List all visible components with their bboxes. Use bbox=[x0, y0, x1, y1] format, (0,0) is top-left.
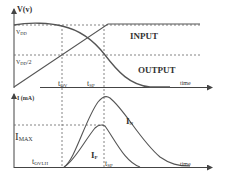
output-label: OUTPUT bbox=[138, 65, 176, 75]
imax-label: IMAX bbox=[15, 130, 33, 142]
input-label: INPUT bbox=[130, 31, 158, 41]
t-ov-label: tOV bbox=[58, 79, 68, 88]
current-time-label: time bbox=[180, 161, 191, 167]
input-curve bbox=[14, 24, 200, 87]
current-plot: I (mA) IMAX tOVLH tSP IP IN time bbox=[14, 94, 212, 168]
vdd-half-label: VDD/2 bbox=[16, 59, 32, 66]
voltage-axis-label: V(v) bbox=[17, 5, 32, 14]
voltage-time-label: time bbox=[180, 80, 191, 86]
timing-diagram: V(v) VDD VDD/2 tOV tSP INPUT OUTPUT time… bbox=[0, 0, 225, 178]
vdd-label: VDD bbox=[16, 29, 28, 36]
in-label: IN bbox=[126, 116, 134, 126]
voltage-plot: V(v) VDD VDD/2 tOV tSP INPUT OUTPUT time bbox=[14, 5, 212, 168]
ip-curve bbox=[64, 125, 140, 167]
in-curve bbox=[64, 97, 190, 167]
t-ovlh-label: tOVLH bbox=[32, 157, 49, 166]
t-sp-bottom-label: tSP bbox=[105, 159, 113, 168]
ip-label: IP bbox=[91, 150, 98, 160]
t-sp-top-label: tSP bbox=[87, 79, 95, 88]
current-axis-label: I (mA) bbox=[17, 95, 34, 102]
